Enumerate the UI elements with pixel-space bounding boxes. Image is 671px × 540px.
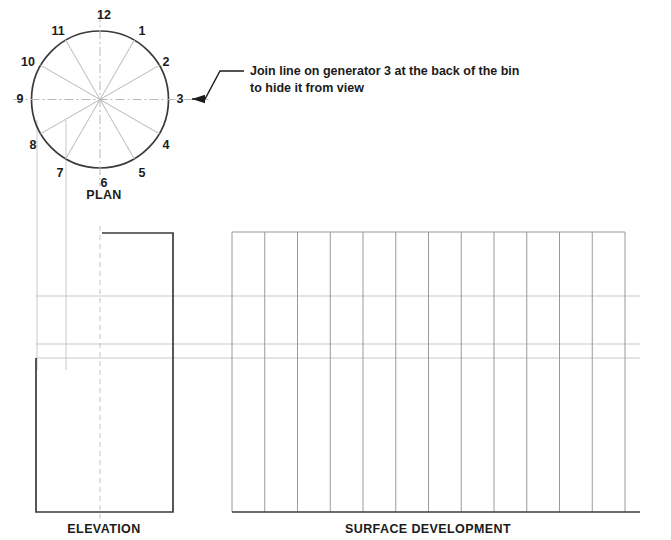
plan-generator-number-10: 10 bbox=[21, 55, 35, 69]
annotation-note: Join line on generator 3 at the back of … bbox=[192, 64, 519, 103]
technical-drawing-canvas: 123456789101112 PLAN Join line on genera… bbox=[0, 0, 671, 540]
plan-generator-number-4: 4 bbox=[163, 138, 170, 152]
surface-development-label: SURFACE DEVELOPMENT bbox=[345, 522, 511, 536]
plan-view-label: PLAN bbox=[86, 188, 122, 202]
plan-generator-number-2: 2 bbox=[163, 55, 170, 69]
plan-view: 123456789101112 PLAN bbox=[14, 8, 209, 202]
arrow-head-icon bbox=[192, 95, 205, 103]
plan-generator-number-8: 8 bbox=[30, 138, 37, 152]
annotation-line-1: Join line on generator 3 at the back of … bbox=[250, 64, 519, 78]
plan-generator-number-5: 5 bbox=[139, 166, 146, 180]
annotation-line-2: to hide it from view bbox=[250, 81, 364, 95]
plan-generator-number-1: 1 bbox=[139, 24, 146, 38]
projection-lines-group bbox=[36, 120, 640, 370]
plan-generator-number-11: 11 bbox=[51, 24, 64, 38]
elevation-view: ELEVATION bbox=[36, 226, 173, 536]
plan-generator-number-12: 12 bbox=[97, 8, 111, 22]
plan-generator-number-9: 9 bbox=[17, 92, 24, 106]
elevation-view-label: ELEVATION bbox=[67, 522, 140, 536]
development-division-lines-group bbox=[232, 232, 625, 512]
leader-line bbox=[192, 71, 244, 99]
surface-development-view: SURFACE DEVELOPMENT bbox=[232, 232, 640, 536]
elevation-outline bbox=[36, 233, 173, 512]
plan-generator-number-3: 3 bbox=[177, 92, 184, 106]
engineering-drawing-svg: 123456789101112 PLAN Join line on genera… bbox=[0, 0, 671, 540]
plan-generator-number-7: 7 bbox=[57, 166, 64, 180]
